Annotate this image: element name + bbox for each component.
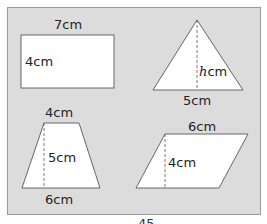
trapezoid-top-label: 4cm: [45, 106, 73, 119]
trapezoid-bottom-label: 6cm: [45, 193, 73, 206]
trapezoid-height-label: 5cm: [48, 151, 76, 164]
triangle-height-unit: cm: [207, 64, 227, 79]
triangle-base-label: 5cm: [183, 94, 211, 107]
parallelogram-height-label: 4cm: [168, 156, 196, 169]
rectangle-width-label: 7cm: [54, 18, 82, 31]
shapes: [0, 0, 267, 224]
parallelogram-base-label: 6cm: [188, 120, 216, 133]
triangle-shape: [153, 20, 243, 90]
rectangle-height-label: 4cm: [25, 55, 53, 68]
page-number: 45: [138, 216, 155, 224]
triangle-height-label: hcm: [199, 65, 227, 78]
